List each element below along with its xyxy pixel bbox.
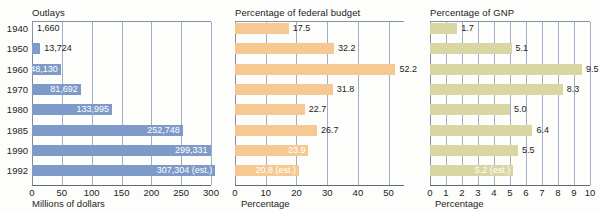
bar-gnp-1970 xyxy=(430,84,563,95)
bar-value-label: 23.9 xyxy=(288,144,306,156)
axis-caption-budget: Percentage xyxy=(241,198,290,209)
x-tick-label: 10 xyxy=(585,187,596,198)
x-tick-label: 5 xyxy=(507,187,512,198)
bar-row: 13,724 xyxy=(32,43,211,54)
bar-budget-1960 xyxy=(235,64,395,75)
bar-value-label: 5.5 xyxy=(522,144,535,156)
three-panel-bar-chart: Outlays 1,66013,72448,13081,692133,99525… xyxy=(0,0,601,212)
bar-row: 8.3 xyxy=(430,84,590,95)
bar-value-label: 9.5 xyxy=(586,63,599,75)
bar-budget-1970 xyxy=(235,84,333,95)
x-tick-label: 50 xyxy=(57,187,68,198)
x-axis-line xyxy=(235,185,404,186)
panel-title-budget: Percentage of federal budget xyxy=(235,7,360,18)
bar-value-label: 26.7 xyxy=(321,124,339,136)
x-tick-label: 4 xyxy=(491,187,496,198)
x-axis-line xyxy=(430,185,590,186)
bar-row: 307,304 (est.) xyxy=(32,165,211,176)
x-tick-label: 7 xyxy=(539,187,544,198)
x-tick-label: 100 xyxy=(84,187,100,198)
year-label-1970: 1970 xyxy=(0,84,28,95)
x-tick-label: 50 xyxy=(383,187,394,198)
x-tick-label: 0 xyxy=(427,187,432,198)
bar-row: 26.7 xyxy=(235,125,404,136)
plot-area-outlays: 1,66013,72448,13081,692133,995252,748299… xyxy=(32,22,211,185)
gridline xyxy=(590,22,591,185)
bar-value-label: 307,304 (est.) xyxy=(157,164,213,176)
bar-value-label: 48,130 xyxy=(30,63,58,75)
x-tick-label: 40 xyxy=(353,187,364,198)
bar-outlays-1950 xyxy=(32,43,40,54)
year-label-1990: 1990 xyxy=(0,145,28,156)
bar-row: 5.0 xyxy=(430,104,590,115)
bar-value-label: 31.8 xyxy=(337,83,355,95)
bar-budget-1950 xyxy=(235,43,334,54)
bar-row: 5.5 xyxy=(430,145,590,156)
bar-row: 5.1 xyxy=(430,43,590,54)
bar-row: 1,660 xyxy=(32,23,211,34)
x-tick-label: 0 xyxy=(232,187,237,198)
bar-value-label: 13,724 xyxy=(44,42,72,54)
bar-gnp-1940 xyxy=(430,23,457,34)
bar-budget-1940 xyxy=(235,23,289,34)
x-tick-label: 10 xyxy=(260,187,271,198)
x-tick-label: 200 xyxy=(143,187,159,198)
plot-area-budget: 17.532.252.231.822.726.723.920.8 (est.) xyxy=(235,22,404,185)
x-tick-label: 6 xyxy=(523,187,528,198)
year-label-1980: 1980 xyxy=(0,104,28,115)
x-tick-label: 9 xyxy=(571,187,576,198)
panel-title-gnp: Percentage of GNP xyxy=(430,7,514,18)
year-label-1992: 1992 xyxy=(0,165,28,176)
bar-gnp-1980 xyxy=(430,104,510,115)
bar-value-label: 5.0 xyxy=(514,103,527,115)
bar-value-label: 252,748 xyxy=(147,124,180,136)
bar-row: 22.7 xyxy=(235,104,404,115)
panel-gnp: Percentage of GNP 1.75.19.58.35.06.45.55… xyxy=(413,0,601,212)
bar-row: 20.8 (est.) xyxy=(235,165,404,176)
bar-row: 31.8 xyxy=(235,84,404,95)
bar-value-label: 6.4 xyxy=(536,124,549,136)
bar-value-label: 17.5 xyxy=(293,22,311,34)
panel-outlays: Outlays 1,66013,72448,13081,692133,99525… xyxy=(0,0,215,212)
year-label-1940: 1940 xyxy=(0,23,28,34)
x-tick-label: 20 xyxy=(291,187,302,198)
x-tick-label: 250 xyxy=(173,187,189,198)
x-tick-label: 0 xyxy=(29,187,34,198)
gridline xyxy=(211,22,212,185)
year-label-1950: 1950 xyxy=(0,43,28,54)
bar-row: 52.2 xyxy=(235,64,404,75)
bar-row: 133,995 xyxy=(32,104,211,115)
year-label-1960: 1960 xyxy=(0,64,28,75)
x-axis-line xyxy=(32,185,211,186)
bar-outlays-1940 xyxy=(32,23,33,34)
bar-row: 81,692 xyxy=(32,84,211,95)
x-tick-label: 30 xyxy=(322,187,333,198)
bar-value-label: 5.2 (est.) xyxy=(475,164,511,176)
plot-area-gnp: 1.75.19.58.35.06.45.55.2 (est.) xyxy=(430,22,590,185)
x-tick-label: 3 xyxy=(475,187,480,198)
panel-title-outlays: Outlays xyxy=(32,7,65,18)
bar-row: 9.5 xyxy=(430,64,590,75)
bar-row: 32.2 xyxy=(235,43,404,54)
bar-row: 17.5 xyxy=(235,23,404,34)
bar-row: 48,130 xyxy=(32,64,211,75)
bar-value-label: 1,660 xyxy=(37,22,60,34)
bar-budget-1985 xyxy=(235,125,317,136)
bar-gnp-1990 xyxy=(430,145,518,156)
bar-value-label: 1.7 xyxy=(461,22,474,34)
bar-value-label: 20.8 (est.) xyxy=(255,164,296,176)
bar-value-label: 22.7 xyxy=(309,103,327,115)
x-tick-label: 150 xyxy=(114,187,130,198)
bar-gnp-1950 xyxy=(430,43,512,54)
axis-caption-outlays: Millions of dollars xyxy=(32,198,105,209)
bar-row: 252,748 xyxy=(32,125,211,136)
bar-value-label: 299,331 xyxy=(175,144,208,156)
bar-value-label: 5.1 xyxy=(516,42,529,54)
year-label-1985: 1985 xyxy=(0,125,28,136)
x-tick-label: 1 xyxy=(443,187,448,198)
bar-value-label: 133,995 xyxy=(76,103,109,115)
x-tick-label: 2 xyxy=(459,187,464,198)
bar-gnp-1960 xyxy=(430,64,582,75)
bar-value-label: 8.3 xyxy=(567,83,580,95)
bar-value-label: 81,692 xyxy=(50,83,78,95)
